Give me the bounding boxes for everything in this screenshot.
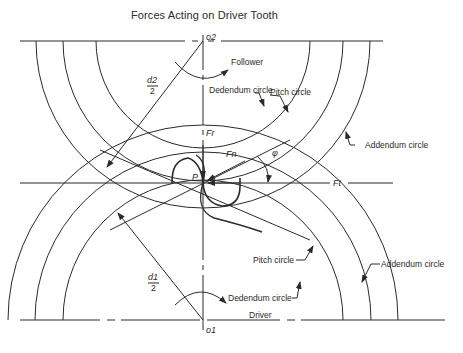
follower-radius-line: [107, 41, 203, 167]
driver-dedendum-circle-label: Dedendum circle: [228, 293, 292, 303]
line-of-action: [110, 140, 290, 230]
driver-dedendum-leader: [292, 282, 300, 298]
d1-denominator: 2: [151, 283, 156, 293]
fr-label: Fr: [206, 128, 215, 138]
phi-label: φ: [272, 148, 278, 158]
o1-label: o1: [206, 325, 216, 335]
follower-addendum-leader: [346, 132, 355, 145]
follower-tooth-profile: [172, 158, 203, 183]
driver-addendum-circle-label: Addendum circle: [381, 259, 445, 269]
follower-dedendum-circle-label: Dedendum circle: [209, 85, 273, 95]
driver-pitch-leader: [296, 246, 313, 260]
d2-denominator: 2: [150, 86, 155, 96]
driver-pitch-circle-label: Pitch circle: [253, 255, 294, 265]
d2-numerator: d2: [147, 75, 157, 85]
follower-addendum-circle-label: Addendum circle: [365, 140, 429, 150]
o2-label: o2: [206, 32, 216, 42]
follower-rotation-arrow: [175, 62, 228, 78]
normal-force-arrow: [208, 161, 245, 180]
driver-radius-line: [118, 213, 203, 320]
follower-pitch-circle-label: Pitch circle: [270, 87, 311, 97]
line-of-action-2: [100, 150, 310, 240]
ft-label: Ft: [333, 178, 341, 188]
d1-numerator: d1: [148, 272, 158, 282]
fn-label: Fn: [226, 149, 237, 159]
gear-force-diagram: o2 o1 P Follower Driver d2 2 d1 2 Pitch …: [0, 0, 463, 353]
driver-label: Driver: [249, 310, 272, 320]
follower-label: Follower: [231, 57, 263, 67]
p-label: P: [192, 172, 198, 182]
